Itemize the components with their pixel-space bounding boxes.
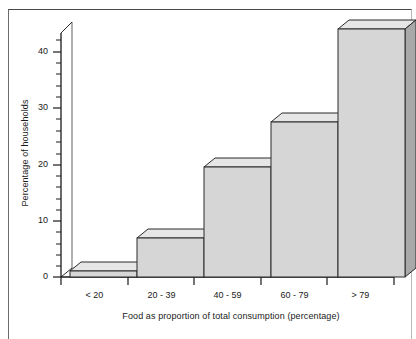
bar-top-face — [137, 229, 215, 238]
bar-front-face — [137, 238, 204, 277]
bar-top-face — [204, 158, 282, 167]
bar-front-face — [70, 271, 137, 277]
y-axis-minor-ticks — [56, 40, 61, 266]
x-tick-label-4: > 79 — [327, 290, 394, 300]
bar-category-3 — [271, 113, 349, 277]
bar-top-face — [338, 20, 416, 29]
bar-front-face — [271, 122, 338, 277]
bar-top-face — [271, 113, 349, 122]
bar-category-2 — [204, 158, 282, 277]
y-axis-title: Percentage of households — [20, 68, 30, 238]
bar-side-face — [405, 20, 416, 277]
x-axis-ticks — [61, 277, 394, 285]
bar-category-1 — [137, 229, 215, 277]
x-tick-label-2: 40 - 59 — [194, 290, 261, 300]
x-axis-title: Food as proportion of total consumption … — [56, 311, 406, 321]
x-tick-label-0: < 20 — [61, 290, 128, 300]
bar-category-4 — [338, 20, 416, 277]
y-axis-top-diagonal — [61, 22, 72, 33]
bar-front-face — [204, 167, 271, 277]
y-tick-label-0: 0 — [26, 271, 48, 281]
y-tick-label-40: 40 — [26, 46, 48, 56]
bar-top-face — [70, 262, 148, 271]
x-tick-label-1: 20 - 39 — [128, 290, 195, 300]
bar-category-0 — [70, 262, 148, 277]
bar-front-face — [338, 29, 405, 277]
x-tick-label-3: 60 - 79 — [261, 290, 328, 300]
